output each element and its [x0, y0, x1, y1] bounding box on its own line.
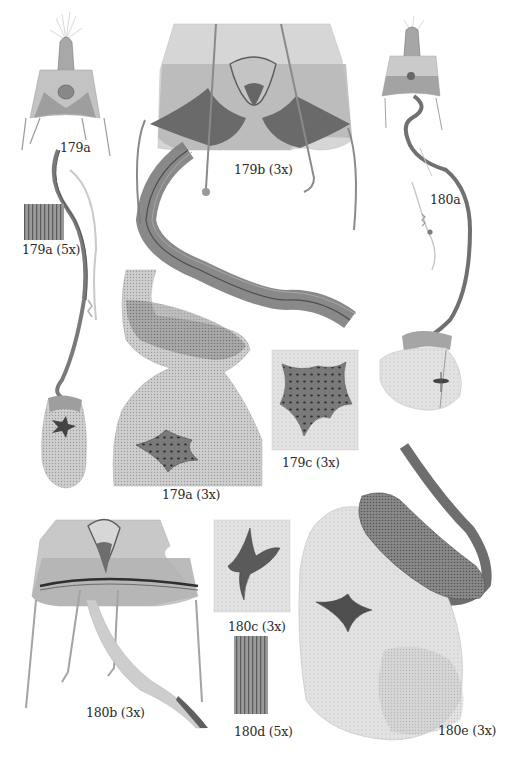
panel-label-179c-3x: 179c (3x) — [282, 455, 340, 470]
specimen-180b — [26, 519, 208, 728]
panel-label-179a-3x: 179a (3x) — [162, 487, 220, 502]
figure-plate: 179a 179a (5x) 179b (3x) 180a 179a (3x) … — [0, 0, 510, 763]
specimen-179a-3x — [113, 270, 262, 486]
specimen-180e — [299, 446, 487, 740]
panel-label-180b-3x: 180b (3x) — [86, 705, 145, 720]
inset-180d-5x — [234, 636, 268, 714]
panel-label-180c-3x: 180c (3x) — [228, 619, 286, 634]
specimen-illustrations — [0, 0, 510, 763]
panel-label-180d-5x: 180d (5x) — [234, 724, 293, 739]
panel-label-179a: 179a — [60, 140, 91, 155]
specimen-180a — [380, 16, 470, 410]
inset-179c-3x — [272, 350, 358, 450]
panel-label-179b-3x: 179b (3x) — [234, 162, 293, 177]
panel-label-179a-5x: 179a (5x) — [22, 242, 80, 257]
panel-label-180e-3x: 180e (3x) — [438, 723, 496, 738]
inset-180c-3x — [214, 520, 290, 612]
inset-179a-5x — [24, 204, 64, 240]
panel-label-180a: 180a — [430, 192, 461, 207]
